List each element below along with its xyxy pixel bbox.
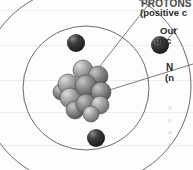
electron-bottom (87, 129, 105, 147)
body-text-line: u (168, 114, 193, 126)
body-text-line: A (168, 102, 193, 114)
callout-protons-subtext: (positive c (140, 7, 187, 18)
leader-line-neutrons (103, 64, 193, 92)
body-text-line: a (168, 126, 193, 138)
callout-outer-shell-subtext: in c (155, 35, 171, 46)
nucleus-particle (83, 106, 99, 122)
figure-canvas: PROTONS (positive c Out in c N (n A u a … (0, 0, 193, 170)
body-text-block: A u a s (168, 102, 193, 150)
electron-top-left (67, 34, 85, 52)
body-text-line: s (168, 138, 193, 150)
nucleus (53, 60, 111, 122)
callout-neutrons-subtext: (n (165, 72, 174, 83)
